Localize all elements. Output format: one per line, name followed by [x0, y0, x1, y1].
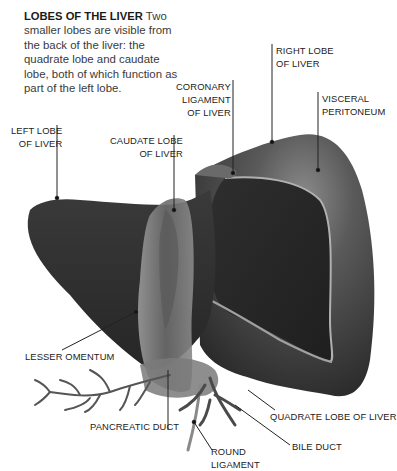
label-line: OF LIVER: [11, 137, 62, 150]
label-round-ligament: ROUND LIGAMENT: [211, 445, 260, 471]
label-quadrate-lobe: QUADRATE LOBE OF LIVER: [270, 410, 397, 423]
label-bile-duct: BILE DUCT: [292, 440, 342, 453]
label-right-lobe: RIGHT LOBE OF LIVER: [276, 44, 334, 70]
label-pancreatic-duct: PANCREATIC DUCT: [90, 420, 179, 433]
label-line: OF LIVER: [176, 106, 231, 119]
quadrate-region: [140, 358, 218, 398]
label-line: OF LIVER: [276, 57, 334, 70]
label-line: CORONARY: [176, 80, 231, 93]
label-line: OF LIVER: [110, 147, 183, 160]
label-caudate-lobe: CAUDATE LOBE OF LIVER: [110, 134, 183, 160]
label-line: ROUND: [211, 445, 260, 458]
bile-duct-shape: [210, 378, 235, 425]
label-line: PERITONEUM: [322, 105, 385, 118]
label-coronary-ligament: CORONARY LIGAMENT OF LIVER: [176, 80, 231, 119]
intro-title: LOBES OF THE LIVER: [24, 10, 146, 22]
label-line: CAUDATE LOBE: [110, 134, 183, 147]
label-left-lobe: LEFT LOBE OF LIVER: [11, 124, 62, 150]
intro-body: Two smaller lobes are visible from the b…: [24, 10, 177, 94]
intro-caption: LOBES OF THE LIVER Two smaller lobes are…: [24, 9, 184, 95]
label-lesser-omentum: LESSER OMENTUM: [25, 350, 114, 363]
label-line: LIGAMENT: [211, 458, 260, 471]
label-line: LIGAMENT: [176, 93, 231, 106]
label-line: RIGHT LOBE: [276, 44, 334, 57]
label-line: LEFT LOBE: [11, 124, 62, 137]
label-visceral-peritoneum: VISCERAL PERITONEUM: [322, 92, 385, 118]
label-line: VISCERAL: [322, 92, 385, 105]
